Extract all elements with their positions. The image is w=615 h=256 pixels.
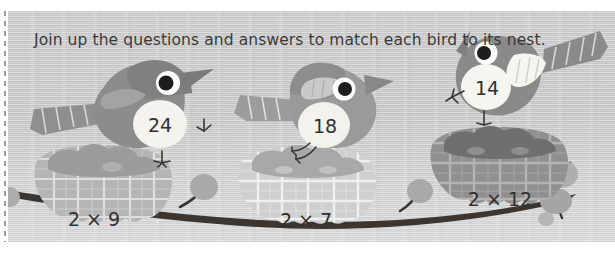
worksheet-page: 2 × 9 <box>0 0 615 256</box>
instruction-text: Join up the questions and answers to mat… <box>34 31 546 49</box>
bird-14-answer: 14 <box>463 77 511 99</box>
perforated-edge <box>4 11 6 242</box>
paper-panel: 2 × 9 <box>8 11 615 242</box>
